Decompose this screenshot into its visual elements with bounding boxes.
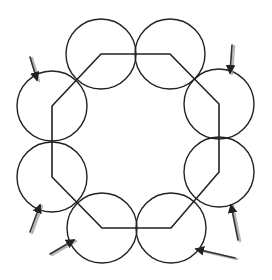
arrow-right-upper-icon [230,45,234,74]
arrow-right-lower-icon [231,205,240,241]
octagon-circle-ring-diagram [0,0,272,280]
arrow-left-lower-icon [30,205,42,233]
arrow-group [30,45,240,259]
diagram-svg [0,0,272,280]
arrow-bottom-right-icon [196,249,237,259]
